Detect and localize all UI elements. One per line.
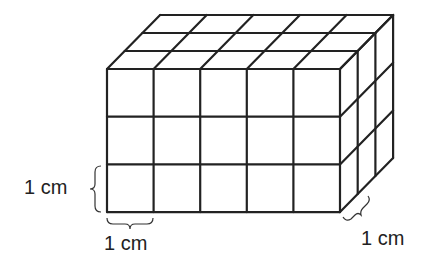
depth-label: 1 cm	[361, 227, 404, 250]
top-depth-edge	[293, 15, 346, 69]
top-depth-edge	[200, 15, 253, 69]
top-depth-edge	[247, 15, 300, 69]
right-depth-edge	[340, 63, 393, 117]
height-brace	[90, 166, 101, 212]
depth-brace	[343, 196, 369, 220]
height-label: 1 cm	[24, 176, 67, 199]
width-label: 1 cm	[104, 232, 147, 255]
right-depth-edge	[340, 110, 393, 164]
top-depth-edge	[107, 15, 160, 69]
top-depth-edge	[154, 15, 207, 69]
right-depth-edge	[340, 15, 393, 69]
width-brace	[107, 218, 153, 229]
cube-grid	[107, 15, 393, 212]
